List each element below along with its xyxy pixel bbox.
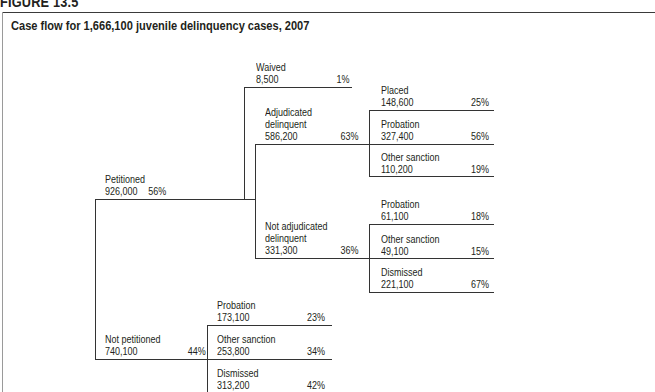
node-count: 148,600	[381, 97, 414, 109]
node-count: 740,100	[105, 346, 138, 358]
node-pct: 67%	[471, 279, 489, 291]
adj-probation-line	[369, 144, 494, 145]
adj-placed-line	[369, 110, 494, 111]
node-nadj-probation: Probation 61,10018%	[381, 199, 489, 223]
node-label: Probation	[381, 199, 489, 211]
node-pct: 36%	[341, 245, 359, 257]
frame-left-border	[2, 12, 3, 392]
node-label: Petitioned	[105, 174, 206, 186]
node-label-2: delinquent	[265, 233, 359, 245]
node-pct: 42%	[307, 380, 325, 392]
node-label: Dismissed	[217, 368, 325, 380]
node-label: Probation	[381, 119, 489, 131]
node-pct: 18%	[471, 211, 489, 223]
node-adj-probation: Probation 327,40056%	[381, 119, 489, 143]
node-count: 49,100	[381, 246, 409, 258]
node-pct: 44%	[188, 346, 206, 358]
node-pct: 63%	[341, 131, 359, 143]
node-label: Other sanction	[217, 334, 325, 346]
petitioned-line	[95, 199, 255, 200]
node-adj-placed: Placed 148,60025%	[381, 85, 489, 109]
node-pct: 1%	[337, 74, 350, 86]
node-count: 110,200	[381, 164, 413, 176]
node-count: 61,100	[381, 211, 409, 223]
node-label: Not petitioned	[105, 334, 206, 346]
node-not-petitioned: Not petitioned 740,10044%	[105, 334, 206, 358]
node-pct: 19%	[471, 164, 489, 176]
waived-trunk	[244, 87, 245, 199]
adj-other-line	[369, 176, 494, 177]
node-pct: 23%	[307, 312, 325, 324]
node-pct: 25%	[471, 97, 489, 109]
node-label-2: delinquent	[265, 119, 359, 131]
node-count: 331,300	[265, 245, 298, 257]
node-petitioned: Petitioned 926,00056%	[105, 174, 206, 198]
node-count: 253,800	[217, 346, 250, 358]
node-pct: 34%	[307, 346, 325, 358]
np-probation-line	[207, 325, 332, 326]
waived-line	[244, 87, 352, 88]
node-count: 313,200	[217, 380, 250, 392]
node-count: 221,100	[381, 279, 414, 291]
not-adjudicated-line	[255, 258, 369, 259]
diagram-title: Case flow for 1,666,100 juvenile delinqu…	[11, 18, 309, 33]
frame-top-border	[2, 12, 655, 13]
root-trunk	[95, 199, 96, 359]
not-petitioned-line	[95, 359, 207, 360]
node-label: Other sanction	[381, 152, 489, 164]
node-not-adjudicated: Not adjudicated delinquent 331,30036%	[265, 221, 359, 257]
node-count: 8,500	[256, 74, 279, 86]
node-label: Other sanction	[381, 234, 489, 246]
node-adjudicated: Adjudicated delinquent 586,20063%	[265, 107, 359, 143]
node-np-dismissed: Dismissed 313,20042%	[217, 368, 325, 392]
node-label-1: Not adjudicated	[265, 221, 359, 233]
node-pct: 56%	[148, 186, 166, 198]
node-label: Placed	[381, 85, 489, 97]
figure-label: FIGURE 13.5	[0, 0, 78, 10]
node-adj-other: Other sanction 110,20019%	[381, 152, 489, 176]
nadj-probation-line	[369, 224, 494, 225]
node-label-1: Adjudicated	[265, 107, 359, 119]
np-other-line	[207, 359, 332, 360]
nadj-dismissed-line	[369, 292, 494, 293]
node-np-probation: Probation 173,10023%	[217, 300, 325, 324]
node-count: 586,200	[265, 131, 298, 143]
node-nadj-other: Other sanction 49,10015%	[381, 234, 489, 258]
adjudicated-line	[255, 144, 369, 145]
node-count: 926,000	[105, 186, 138, 198]
adjudication-trunk	[255, 144, 256, 258]
node-pct: 15%	[471, 246, 489, 258]
node-waived: Waived 8,5001%	[256, 62, 350, 86]
node-label: Dismissed	[381, 267, 489, 279]
node-label: Probation	[217, 300, 325, 312]
node-nadj-dismissed: Dismissed 221,10067%	[381, 267, 489, 291]
node-label: Waived	[256, 62, 350, 74]
node-pct: 56%	[471, 131, 489, 143]
node-count: 173,100	[217, 312, 250, 324]
node-np-other: Other sanction 253,80034%	[217, 334, 325, 358]
adj-disposition-trunk	[369, 110, 370, 176]
node-count: 327,400	[381, 131, 414, 143]
nadj-other-line	[369, 258, 494, 259]
